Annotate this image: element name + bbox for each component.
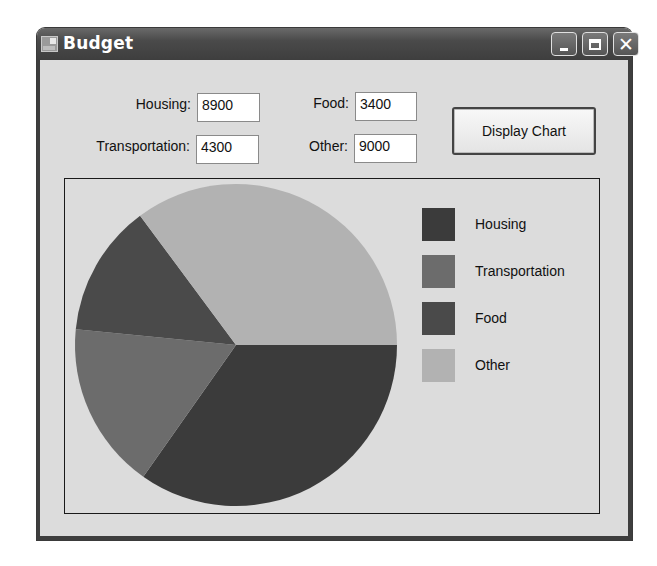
window-frame-bottom xyxy=(37,536,632,540)
housing-input[interactable]: 8900 xyxy=(197,93,260,122)
window-title: Budget xyxy=(63,33,133,53)
legend-swatch-food xyxy=(422,302,455,335)
maximize-button[interactable] xyxy=(582,32,608,56)
food-input[interactable]: 3400 xyxy=(355,92,417,121)
minimize-icon xyxy=(560,48,568,51)
legend-swatch-transportation xyxy=(422,255,455,288)
other-label: Other: xyxy=(287,138,348,154)
transportation-label: Transportation: xyxy=(57,138,190,154)
legend-item-transportation: Transportation xyxy=(422,254,565,288)
legend-item-housing: Housing xyxy=(422,207,526,241)
title-bar[interactable]: Budget ✕ xyxy=(37,28,632,60)
window-frame-right xyxy=(628,60,632,540)
budget-window: Budget ✕ Housing: 8900 Food: 3400 Transp… xyxy=(37,28,632,540)
legend-item-food: Food xyxy=(422,301,507,335)
other-input[interactable]: 9000 xyxy=(354,134,417,163)
maximize-icon xyxy=(589,39,601,50)
legend-item-other: Other xyxy=(422,348,510,382)
close-icon: ✕ xyxy=(618,35,634,54)
legend-label-housing: Housing xyxy=(475,216,526,232)
housing-label: Housing: xyxy=(97,96,191,112)
legend-swatch-other xyxy=(422,349,455,382)
legend-swatch-housing xyxy=(422,208,455,241)
legend-label-other: Other xyxy=(475,357,510,373)
chart-panel: Housing Transportation Food Other xyxy=(64,178,600,514)
food-label: Food: xyxy=(287,95,349,111)
window-frame-left xyxy=(37,60,40,540)
transportation-input[interactable]: 4300 xyxy=(196,135,259,164)
legend-label-transportation: Transportation xyxy=(475,263,565,279)
app-form-icon[interactable] xyxy=(41,36,58,52)
close-button[interactable]: ✕ xyxy=(613,32,639,56)
display-chart-button[interactable]: Display Chart xyxy=(452,107,596,155)
minimize-button[interactable] xyxy=(551,32,577,56)
legend-label-food: Food xyxy=(475,310,507,326)
